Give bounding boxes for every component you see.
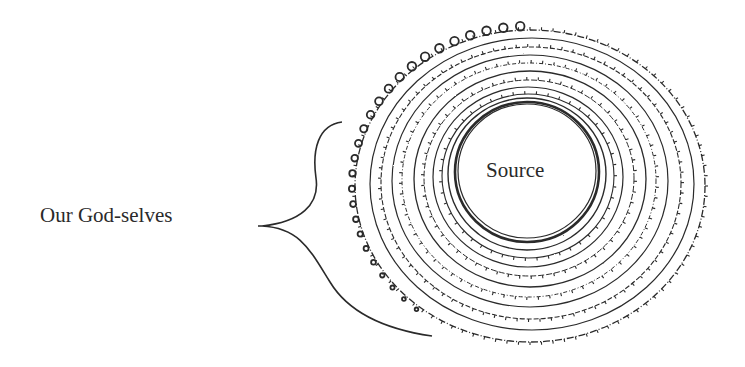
spiral-rings [355,30,705,342]
source-label: Source [486,158,544,183]
diagram-canvas: Our God-selves Source [0,0,745,367]
spiral-diagram [0,0,745,367]
ring-outer [355,30,705,342]
god-selves-label: Our God-selves [40,203,172,228]
curly-brace-icon [258,122,432,336]
